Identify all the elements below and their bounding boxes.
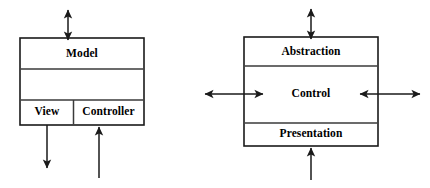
pac-outer-box: [244, 37, 378, 146]
mvc-outer-box: [20, 38, 144, 125]
diagram-vector-layer: [0, 0, 430, 188]
pac-box-group: [244, 37, 378, 146]
mvc-box-group: [20, 38, 144, 125]
diagram-canvas: Model View Controller Abstraction Contro…: [0, 0, 430, 188]
